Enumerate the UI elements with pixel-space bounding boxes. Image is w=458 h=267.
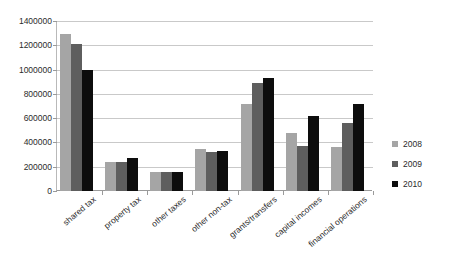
bar-2010: [127, 158, 138, 191]
bar-group: [237, 21, 282, 191]
y-axis-label-group: 1400000120000010000008000006000004000002…: [0, 21, 52, 191]
legend-swatch-icon: [392, 141, 398, 147]
bar-2008: [241, 104, 252, 191]
x-axis-tick-label: property tax: [103, 195, 143, 230]
bar-2010: [353, 104, 364, 191]
x-axis-label-group: shared taxproperty taxother taxesother n…: [56, 191, 372, 267]
legend-label: 2010: [403, 180, 422, 189]
bar-2008: [286, 133, 297, 191]
bar-2009: [116, 162, 127, 191]
bar-2008: [105, 162, 116, 191]
bar-2008: [150, 172, 161, 191]
x-axis-tick-label: other non-tax: [189, 195, 233, 234]
bar-2009: [206, 152, 217, 191]
y-axis-tick-label: 600000: [0, 114, 52, 123]
bar-group: [56, 21, 101, 191]
bar-2008: [195, 149, 206, 192]
y-axis-tick-label: 0: [0, 187, 52, 196]
bar-2010: [172, 172, 183, 191]
bar-2010: [308, 116, 319, 191]
bar-2010: [82, 70, 93, 191]
legend-item: 2010: [392, 174, 454, 194]
bar-2008: [60, 34, 71, 191]
x-axis-tick-label: grants/transfers: [227, 195, 278, 239]
legend-swatch-icon: [392, 161, 398, 167]
bar-2009: [297, 146, 308, 191]
bar-chart: 1400000120000010000008000006000004000002…: [0, 0, 458, 267]
bar-group: [146, 21, 191, 191]
bar-group: [282, 21, 327, 191]
legend: 200820092010: [392, 134, 454, 194]
bar-2009: [161, 172, 172, 191]
bar-2010: [263, 78, 274, 191]
bar-2009: [342, 123, 353, 191]
y-axis-tick-label: 200000: [0, 162, 52, 171]
bar-2009: [71, 44, 82, 191]
bar-2008: [331, 147, 342, 191]
legend-swatch-icon: [392, 181, 398, 187]
bar-2010: [217, 151, 228, 191]
y-axis-tick-label: 1200000: [0, 41, 52, 50]
bars-layer: [56, 21, 372, 191]
x-axis-tick-label: other taxes: [150, 195, 188, 229]
y-axis-tick-label: 1400000: [0, 17, 52, 26]
x-axis-tick-label: shared tax: [62, 195, 98, 227]
y-axis-tick-label: 800000: [0, 90, 52, 99]
legend-item: 2008: [392, 134, 454, 154]
bar-group: [327, 21, 372, 191]
y-axis-tick-label: 400000: [0, 138, 52, 147]
legend-item: 2009: [392, 154, 454, 174]
bar-group: [101, 21, 146, 191]
x-axis-tick-mark: [373, 191, 374, 195]
legend-label: 2009: [403, 160, 422, 169]
bar-group: [191, 21, 236, 191]
legend-label: 2008: [403, 140, 422, 149]
bar-2009: [252, 83, 263, 191]
y-axis-tick-label: 1000000: [0, 65, 52, 74]
